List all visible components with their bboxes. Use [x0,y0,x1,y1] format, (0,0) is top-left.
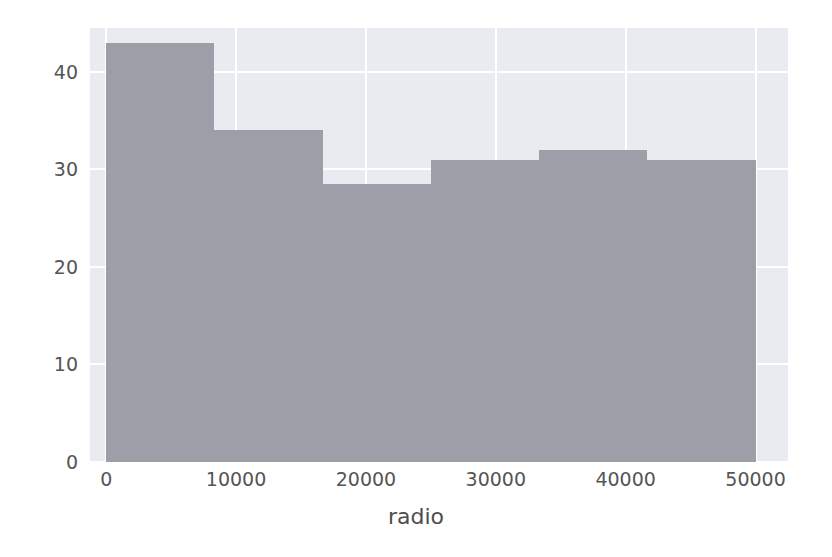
y-tick-label: 40 [8,61,78,83]
x-tick-label: 10000 [176,468,296,490]
x-tick-label: 40000 [566,468,686,490]
x-tick-label: 50000 [696,468,816,490]
plot-area [90,28,788,462]
x-tick-label: 0 [46,468,166,490]
y-tick-label: 10 [8,353,78,375]
y-tick-label: 20 [8,256,78,278]
histogram-bar [431,160,539,462]
x-tick-label: 30000 [436,468,556,490]
histogram-bar [214,130,322,462]
histogram-bar [323,184,431,462]
x-axis-label: radio [0,504,832,529]
y-tick-label: 30 [8,158,78,180]
histogram-bar [106,43,214,462]
x-tick-label: 20000 [306,468,426,490]
histogram-figure: 010203040 01000020000300004000050000 rad… [0,0,832,557]
histogram-bar [539,150,647,462]
histogram-bar [647,160,755,462]
